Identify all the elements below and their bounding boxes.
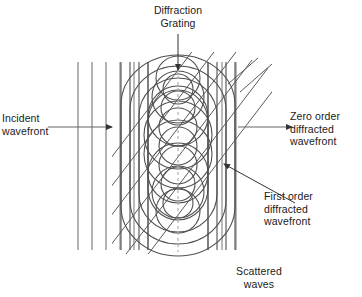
label-zero-order-wavefront: Zero order diffracted wavefront (290, 110, 362, 148)
diffraction-grating-figure: Diffraction Grating Incident wavefront Z… (0, 0, 362, 297)
label-incident-wavefront: Incident wavefront (2, 112, 82, 137)
first-order-wavefront-lines (56, 36, 284, 270)
label-first-order-wavefront: First order diffracted wavefront (264, 190, 360, 228)
label-scattered-waves: Scattered waves (218, 265, 300, 290)
diagram-canvas (0, 0, 362, 297)
label-diffraction-grating: Diffraction Grating (126, 4, 230, 29)
envelope-arc (139, 62, 217, 232)
first-order-line (136, 76, 284, 270)
incident-wavefront-lines (78, 62, 106, 250)
first-order-line (240, 64, 272, 92)
